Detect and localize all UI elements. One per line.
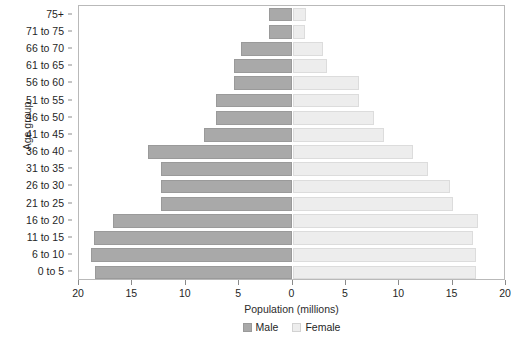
legend-entry-female[interactable]: Female (292, 321, 340, 333)
y-tick-mark (68, 219, 72, 220)
x-tick-label: 15 (126, 287, 138, 299)
x-tick-label: 20 (72, 287, 84, 299)
x-tick-mark (238, 280, 239, 285)
y-tick-label-11-to-15: 11 to 15 (27, 231, 64, 243)
y-tick-label-41-to-45: 41 to 45 (26, 128, 64, 140)
y-tick-label-6-to-10: 6 to 10 (32, 248, 64, 260)
y-tick-mark (68, 30, 72, 31)
legend-entry-male[interactable]: Male (243, 321, 279, 333)
legend-label-male: Male (256, 321, 279, 333)
bar-male-66-to-70 (241, 42, 292, 56)
bar-male-41-to-45 (204, 128, 293, 142)
bar-male-31-to-35 (161, 162, 292, 176)
y-tick-label-0-to-5: 0 to 5 (38, 265, 64, 277)
bar-male-6-to-10 (91, 248, 293, 262)
bar-male-51-to-55 (216, 94, 293, 108)
y-tick-mark (68, 151, 72, 152)
y-tick-mark (68, 202, 72, 203)
y-tick-mark (68, 271, 72, 272)
bar-female-36-to-40 (293, 145, 414, 159)
y-tick-label-46-to-50: 46 to 50 (26, 111, 64, 123)
y-tick-label-36-to-40: 36 to 40 (26, 145, 64, 157)
bar-female-11-to-15 (293, 231, 473, 245)
bar-female-41-to-45 (293, 128, 385, 142)
x-tick-mark (452, 280, 453, 285)
y-tick-mark (68, 116, 72, 117)
y-tick-mark (68, 47, 72, 48)
bar-male-71-to-75 (269, 25, 292, 39)
x-tick-label: 20 (499, 287, 511, 299)
bar-female-16-to-20 (293, 214, 479, 228)
bar-female-66-to-70 (293, 42, 324, 56)
bar-male-0-to-5 (95, 266, 292, 280)
x-tick-label: 15 (446, 287, 458, 299)
x-axis-title: Population (millions) (78, 303, 505, 315)
bar-female-26-to-30 (293, 180, 451, 194)
y-tick-label-31-to-35: 31 to 35 (26, 162, 64, 174)
y-tick-mark (68, 133, 72, 134)
y-tick-label-16-to-20: 16 to 20 (26, 214, 64, 226)
y-tick-label-51-to-55: 51 to 55 (26, 94, 64, 106)
bar-female-31-to-35 (293, 162, 429, 176)
y-tick-mark (68, 185, 72, 186)
y-tick-mark (68, 82, 72, 83)
bar-male-16-to-20 (113, 214, 292, 228)
y-tick-label-75plus: 75+ (46, 8, 64, 20)
y-tick-label-71-to-75: 71 to 75 (26, 25, 64, 37)
bar-female-51-to-55 (293, 94, 359, 108)
bar-male-46-to-50 (216, 111, 293, 125)
bar-female-21-to-25 (293, 197, 453, 211)
x-tick-mark (131, 280, 132, 285)
bar-female-71-to-75 (293, 25, 306, 39)
bar-female-56-to-60 (293, 76, 359, 90)
x-tick-mark (505, 280, 506, 285)
bar-female-6-to-10 (293, 248, 477, 262)
x-tick-mark (345, 280, 346, 285)
x-tick-mark (398, 280, 399, 285)
y-tick-mark (68, 99, 72, 100)
bar-male-56-to-60 (234, 76, 293, 90)
bar-male-75plus (269, 8, 292, 22)
bar-female-75plus (293, 8, 307, 22)
plot-area (78, 5, 505, 280)
y-tick-mark (68, 254, 72, 255)
x-tick-mark (185, 280, 186, 285)
y-tick-mark (68, 65, 72, 66)
x-tick-label: 10 (392, 287, 404, 299)
bar-male-36-to-40 (148, 145, 292, 159)
y-axis-tick-labels: 0 to 56 to 1011 to 1516 to 2021 to 2526 … (0, 5, 72, 280)
bar-female-0-to-5 (293, 266, 477, 280)
chart-legend: Male Female (78, 321, 505, 333)
y-tick-label-26-to-30: 26 to 30 (26, 179, 64, 191)
bar-female-61-to-65 (293, 59, 327, 73)
bar-male-26-to-30 (161, 180, 292, 194)
y-tick-mark (68, 13, 72, 14)
x-tick-label: 0 (289, 287, 295, 299)
bar-female-46-to-50 (293, 111, 374, 125)
x-tick-label: 5 (342, 287, 348, 299)
x-tick-mark (78, 280, 79, 285)
x-tick-mark (292, 280, 293, 285)
bar-male-11-to-15 (94, 231, 293, 245)
y-tick-label-66-to-70: 66 to 70 (26, 42, 64, 54)
y-tick-mark (68, 168, 72, 169)
y-tick-label-56-to-60: 56 to 60 (26, 76, 64, 88)
bar-male-21-to-25 (161, 197, 292, 211)
x-axis-tick-labels: 201510505101520 (78, 287, 505, 301)
y-tick-label-61-to-65: 61 to 65 (26, 59, 64, 71)
legend-label-female: Female (305, 321, 340, 333)
y-tick-label-21-to-25: 21 to 25 (26, 197, 64, 209)
x-axis-tick-marks (78, 280, 505, 286)
x-tick-label: 10 (179, 287, 191, 299)
x-tick-label: 5 (235, 287, 241, 299)
y-tick-mark (68, 237, 72, 238)
female-swatch-icon (292, 323, 301, 332)
bar-male-61-to-65 (234, 59, 293, 73)
male-swatch-icon (243, 323, 252, 332)
